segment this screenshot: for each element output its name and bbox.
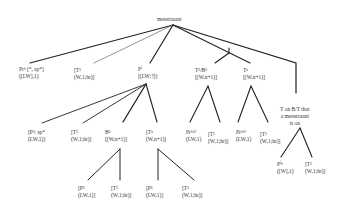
node-sublabel: (LW,1) <box>186 136 201 143</box>
node-label: Pⁱ <box>138 66 157 73</box>
edge-n3-n3d <box>146 84 157 122</box>
node-sublabel: [(W,n+1)] <box>195 74 217 81</box>
node-t-on-bt: T on B/T that a menstruant is on <box>280 106 310 127</box>
node-label: [T¹ <box>305 161 325 168</box>
node-label: Prᵇ⁽ᵃ⁾ <box>186 129 201 136</box>
edge-root-n4 <box>215 53 229 63</box>
node-p1-sp: [P¹: sp* (LW,1)] <box>28 129 45 143</box>
node-pib: Pⁱᵇ ([W],1) <box>277 161 294 175</box>
node-p1: [P¹ (LW,1)] <box>146 185 163 199</box>
node-label: T¹/B¹ <box>195 67 217 74</box>
node-t1: [T¹ (W,1;hr)] <box>74 67 94 81</box>
root-node: menstruant <box>157 16 181 23</box>
node-label: [Tⁿ <box>146 129 166 136</box>
node-sublabel: (W,1;hr)] <box>260 138 280 145</box>
node-sublabel: ([LW],1) <box>19 73 44 80</box>
node-b1: B¹ [(W,n+1)] <box>105 129 127 143</box>
node-label: [T¹ <box>111 185 131 192</box>
edge-root-n6 <box>173 25 296 93</box>
edge-n6-n6b <box>300 128 312 157</box>
node-label: [P¹ <box>146 185 163 192</box>
node-t1: [T¹ (W,1;hr)] <box>71 129 91 143</box>
node-sublabel: (W,1;hr)] <box>74 74 94 81</box>
node-label: T on B/T that <box>280 106 310 113</box>
node-t1: [T¹ (W,1;hr)] <box>182 185 202 199</box>
node-sublabel: (LW,1) <box>236 136 251 143</box>
node-sublabel: (W,1;hr)] <box>208 138 228 145</box>
node-sublabel: (W,1;hr)] <box>111 192 131 199</box>
edge-n6-n6a <box>281 128 300 157</box>
edge-root-n5 <box>173 25 250 63</box>
root-label: menstruant <box>157 16 181 22</box>
node-label: [T¹ <box>74 67 94 74</box>
edge-n3-n3b <box>83 84 146 123</box>
node-sublabel: (W,1;hr)] <box>71 136 91 143</box>
edge-n5-n5a <box>238 86 251 122</box>
node-label: [T¹ <box>260 131 280 138</box>
node-pr-b-a: Prᵇ⁽ᵃ⁾ (LW,1) <box>186 129 201 143</box>
node-sublabel: (W,n+1)] <box>146 136 166 143</box>
edge-n4-n4b <box>208 86 220 122</box>
edge-n3-n3c <box>123 84 146 122</box>
node-label: [T¹ <box>182 185 202 192</box>
edge-n3d-n3db <box>158 149 194 180</box>
node-label: [P¹: sp* <box>28 129 45 136</box>
node-sublabel: [(LW;?)] <box>138 73 157 80</box>
node-sublabel: [(W,n+1)] <box>243 74 265 81</box>
node-label: [T¹ <box>208 131 228 138</box>
node-sublabel: ([W],1) <box>277 168 294 175</box>
node-sublabel: (LW,1)] <box>146 192 163 199</box>
node-label: is on <box>280 120 310 127</box>
node-tn: Tⁿ [(W,n+1)] <box>243 67 265 81</box>
edge-n3c-n3ca <box>88 149 120 180</box>
node-t1: [T¹ (W,1;hr)] <box>260 131 280 145</box>
node-label: [P¹ <box>78 185 95 192</box>
node-pr-b-a: Prᵇ⁽ᵃ⁾ (LW,1) <box>236 129 251 143</box>
node-label: B¹ <box>105 129 127 136</box>
node-label: Tⁿ <box>243 67 265 74</box>
node-label: Prᵇ⁽ᵃ⁾ <box>236 129 251 136</box>
node-t1-b1: T¹/B¹ [(W,n+1)] <box>195 67 217 81</box>
node-sublabel: (W,1;hr)] <box>305 168 325 175</box>
node-label: Prᵇ [*, sp*] <box>19 66 44 73</box>
node-label: Pⁱᵇ <box>277 161 294 168</box>
edge-n5-n5b <box>251 86 268 122</box>
node-label: a menstruant <box>280 113 310 120</box>
node-t1: [T¹ (W,1;hr)] <box>208 131 228 145</box>
edge-root-n1 <box>30 25 173 63</box>
node-pi: Pⁱ [(LW;?)] <box>138 66 157 80</box>
node-t1: [T¹ (W,1;hr)] <box>111 185 131 199</box>
node-tn: [Tⁿ (W,n+1)] <box>146 129 166 143</box>
edge-n3-n3a <box>42 84 146 123</box>
edge-n4-n4a <box>190 86 208 122</box>
node-t1: [T¹ (W,1;hr)] <box>305 161 325 175</box>
node-sublabel: [(W,n+1)] <box>105 136 127 143</box>
node-label: [T¹ <box>71 129 91 136</box>
node-pr-b: Prᵇ [*, sp*] ([LW],1) <box>19 66 44 80</box>
node-sublabel: (LW,1)] <box>78 192 95 199</box>
node-sublabel: (LW,1)] <box>28 136 45 143</box>
node-p1: [P¹ (LW,1)] <box>78 185 95 199</box>
node-sublabel: (W,1;hr)] <box>182 192 202 199</box>
